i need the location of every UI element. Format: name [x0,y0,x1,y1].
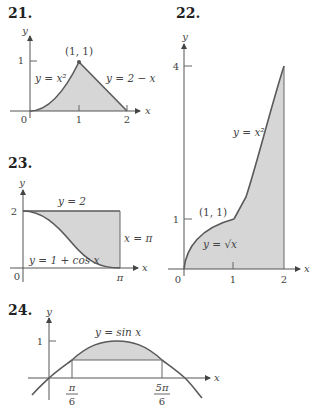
panel-number: 24. [8,302,32,318]
x-tick-0: 0 [175,274,181,285]
x-tick-2: 2 [124,114,130,125]
point-label: (1, 1) [65,45,93,57]
y-axis-label: y [21,25,28,36]
y-tick-4: 4 [173,61,179,72]
curve-label-2-minus-x: y = 2 − x [105,72,156,84]
panel-21: 21. y x 0 1 2 1 (1, 1) y = x² y = 2 − x [8,5,156,125]
y-axis-label: y [181,31,188,42]
panel-number: 22. [176,5,200,21]
panel-24: 24. y x 1 π 6 5π 6 y = sin x [8,302,220,407]
curve-label-y-2: y = 2 [57,195,86,207]
panel-22: 22. y x 4 1 0 1 2 (1, 1) y = x² y = √x [168,5,310,285]
y-tick-1: 1 [37,336,43,347]
y-axis-label: y [18,177,25,188]
curve-label-x-pi: x = π [124,232,153,244]
x-tick-5pi-6-num: 5π [156,382,169,393]
curve-label-sqrt-x: y = √x [202,238,237,250]
y-tick-2: 2 [11,206,17,217]
curve-label-sin-x: y = sin x [94,326,141,338]
curve-label-x-squared: y = x² [232,126,265,138]
x-tick-pi: π [116,272,124,283]
x-axis-label: x [145,105,151,116]
panel-number: 23. [8,155,32,171]
x-tick-0: 0 [21,114,27,125]
y-tick-1: 1 [173,214,179,225]
curve-label-1-plus-cos-x: y = 1 + cos x [28,254,99,266]
point-1-1 [77,60,81,64]
x-tick-1: 1 [76,114,82,125]
panel-number: 21. [8,5,32,21]
x-tick-2: 2 [281,274,287,285]
x-tick-0: 0 [14,271,20,282]
panel-23: 23. y x 2 0 π y = 2 x = π y = 1 + cos x [8,155,153,283]
x-axis-label: x [304,263,310,274]
x-tick-5pi-6-den: 6 [159,396,165,407]
point-label: (1, 1) [199,206,227,218]
x-tick-pi-6-den: 6 [69,396,75,407]
shaded-region [30,62,127,111]
y-tick-1: 1 [18,55,24,66]
figure-canvas: 21. y x 0 1 2 1 (1, 1) y = x² y = 2 − x … [0,0,316,410]
x-axis-label: x [214,372,220,383]
x-axis-label: x [142,262,148,273]
y-axis-label: y [45,306,52,317]
x-tick-pi-6-num: π [68,382,76,393]
curve-label-x-squared: y = x² [34,72,67,84]
x-tick-1: 1 [230,274,236,285]
